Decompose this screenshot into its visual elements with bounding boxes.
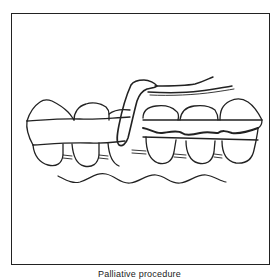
- gum-left-edge: [27, 121, 33, 145]
- wavy-line: [58, 174, 226, 183]
- lower-tooth-4: [146, 137, 176, 164]
- upper-tooth-1: [27, 100, 74, 121]
- gum-lower-line-right: [143, 137, 258, 140]
- lower-teeth: [33, 128, 258, 167]
- upper-tooth-3: [109, 110, 130, 114]
- lower-tooth-5: [186, 141, 215, 164]
- gum-bottom-line: [33, 141, 125, 145]
- upper-tooth-6: [220, 99, 262, 128]
- gum-margin-right: [143, 128, 258, 135]
- interdental-lines: [63, 150, 222, 159]
- upper-tooth-2: [74, 103, 109, 120]
- instrument-shank-upper: [155, 77, 213, 86]
- lower-tooth-1: [33, 144, 63, 166]
- gum-top-line: [27, 117, 130, 121]
- upper-teeth: [27, 99, 262, 128]
- lower-tooth-2: [72, 143, 99, 167]
- gum-band: [27, 117, 262, 145]
- upper-tooth-5: [180, 106, 218, 120]
- figure-caption: Palliative procedure: [0, 269, 279, 279]
- upper-tooth-4: [143, 106, 179, 120]
- instrument-tip: [117, 80, 157, 146]
- lower-tooth-3: [108, 143, 119, 166]
